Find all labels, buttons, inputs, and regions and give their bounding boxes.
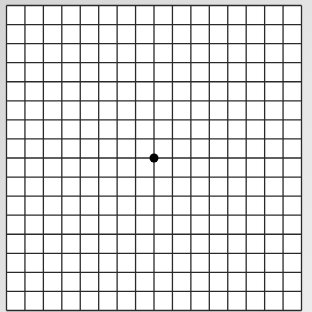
amsler-grid — [0, 0, 312, 312]
fixation-dot — [150, 154, 159, 163]
amsler-grid-image — [0, 0, 312, 312]
